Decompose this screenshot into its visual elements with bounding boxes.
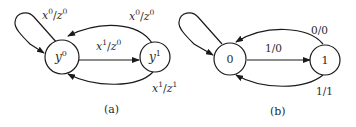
state-0: 0 (214, 43, 246, 75)
self-loop-edge-b (179, 13, 222, 55)
state-0-label: 0 (227, 53, 234, 66)
edge-1-to-0-bottom (236, 75, 323, 86)
middle-edge-label-b: 1/0 (265, 42, 282, 54)
state-1: 1 (310, 45, 340, 75)
state-1-label: 1 (322, 54, 329, 67)
middle-edge-label-a: x1/z0 (96, 38, 122, 53)
bottom-edge-label-b: 1/1 (316, 85, 333, 97)
top-edge-label-b: 0/0 (311, 24, 328, 36)
top-edge-label-a: x0/z0 (129, 8, 155, 23)
edge-y1-to-y0-bottom (68, 72, 153, 84)
self-loop-label-a: x0/z0 (42, 7, 68, 22)
state-y0: y0 (45, 40, 79, 74)
caption-a: (a) (104, 103, 119, 116)
caption-b: (b) (270, 105, 286, 118)
diagram-a: y0 y1 x0/z0 x0/z0 x1/z0 x1/z1 (a) (15, 7, 177, 116)
diagram-b: 0 1 0/0 1/0 1/1 (b) (179, 13, 340, 118)
state-y1: y1 (140, 42, 170, 72)
state-diagrams: y0 y1 x0/z0 x0/z0 x1/z0 x1/z1 (a) 0 (0, 0, 356, 127)
bottom-edge-label-a: x1/z1 (152, 80, 177, 95)
